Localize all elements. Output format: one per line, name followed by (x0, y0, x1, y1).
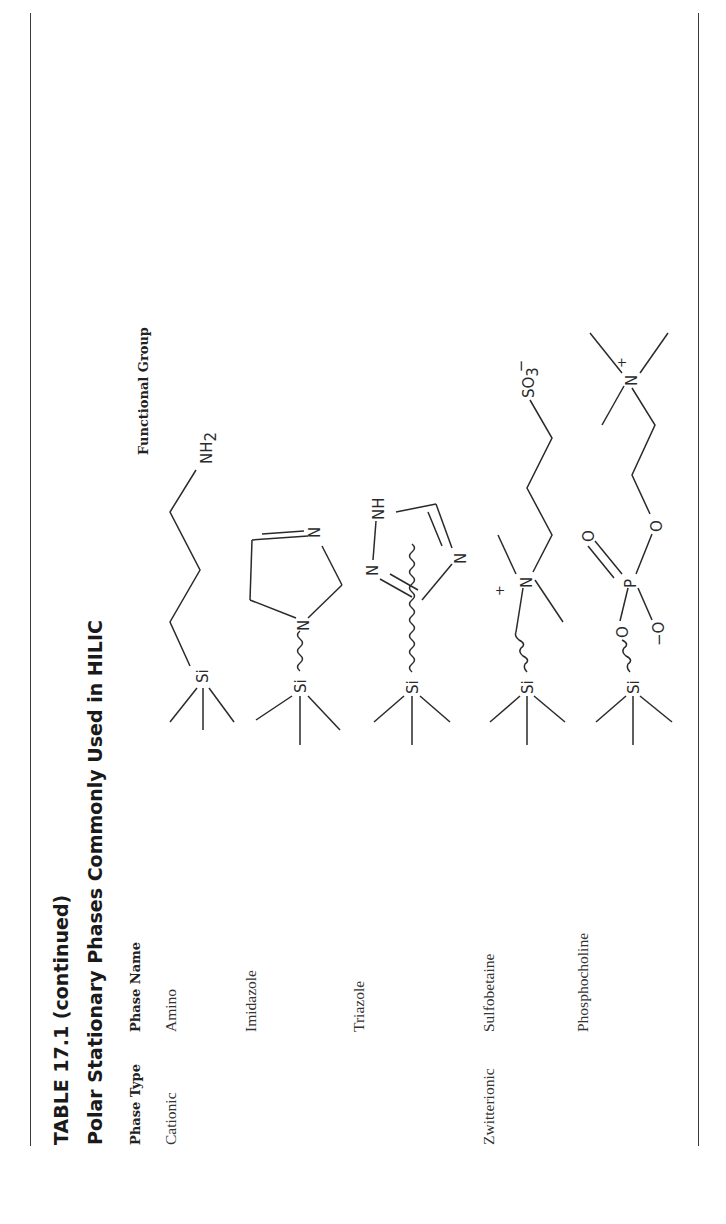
structure-sulfobetaine: Si N + SO3− (490, 360, 565, 745)
ring-double-bond (436, 504, 452, 548)
atom-si: Si (292, 679, 310, 693)
ring-bond (250, 540, 252, 600)
atom-si: Si (404, 680, 422, 694)
bond (620, 588, 628, 621)
silica-anchor-legs (490, 696, 565, 745)
atom-so3: SO3− (512, 360, 542, 398)
ring-bond (373, 521, 376, 560)
atom-n: N (452, 553, 470, 564)
wavy-linker (515, 632, 527, 672)
methyl-bond (535, 580, 563, 622)
atom-si: Si (625, 680, 643, 694)
ring-double-bond (380, 579, 412, 597)
rotated-table-page: TABLE 17.1 (continued) Polar Stationary … (0, 0, 726, 1224)
double-bond (588, 546, 614, 578)
functional-group-structures: Si NH2 Si N N (0, 0, 726, 1224)
atom-n-plus: N (623, 375, 641, 386)
ring-double-bond (428, 512, 442, 546)
wavy-linker (298, 631, 303, 671)
atom-nh: NH (370, 498, 388, 521)
structure-phosphocholine: Si O P O −O O N + (580, 333, 672, 745)
propyl-chain (170, 470, 200, 666)
atom-nh2: NH2 (198, 432, 220, 464)
ring-bond (250, 600, 296, 618)
silica-anchor-legs (374, 696, 450, 745)
ring-bond (308, 585, 342, 618)
ethyl-chain (632, 388, 655, 514)
atom-p: P (622, 579, 640, 588)
atom-o: O (614, 626, 632, 638)
methyl-bond (590, 333, 622, 373)
silica-anchor-legs (596, 696, 672, 745)
atom-n: N (295, 620, 313, 631)
atom-o-minus: −O (650, 622, 668, 646)
atom-o-ester: O (648, 520, 666, 532)
double-bond (595, 541, 622, 574)
charge-plus: + (492, 585, 507, 596)
ring-bond (396, 504, 436, 512)
atom-si: Si (519, 680, 537, 694)
atom-n: N (364, 565, 382, 576)
methyl-bond (498, 535, 516, 574)
ring-double-bond (252, 536, 308, 540)
ring-double-bond (262, 531, 304, 534)
atom-si: Si (194, 669, 212, 683)
atom-n: N (306, 527, 324, 538)
ring-bond (322, 546, 342, 585)
methyl-bond (602, 386, 624, 425)
structure-imidazole: Si N N (250, 527, 342, 745)
bond (516, 588, 523, 632)
wavy-linker (622, 640, 631, 672)
silica-anchor-legs (256, 696, 340, 745)
wavy-linker (410, 544, 415, 672)
structure-amino: Si NH2 (170, 432, 234, 730)
silica-anchor-legs (170, 688, 234, 730)
bond (638, 588, 652, 620)
structure-triazole: Si N NH N (364, 498, 470, 746)
atom-o-double: O (580, 530, 598, 542)
methyl-bond (640, 333, 668, 373)
atom-n-plus: N (518, 577, 536, 588)
bond (636, 534, 652, 574)
propyl-chain (527, 400, 552, 572)
ring-bond (422, 564, 452, 600)
